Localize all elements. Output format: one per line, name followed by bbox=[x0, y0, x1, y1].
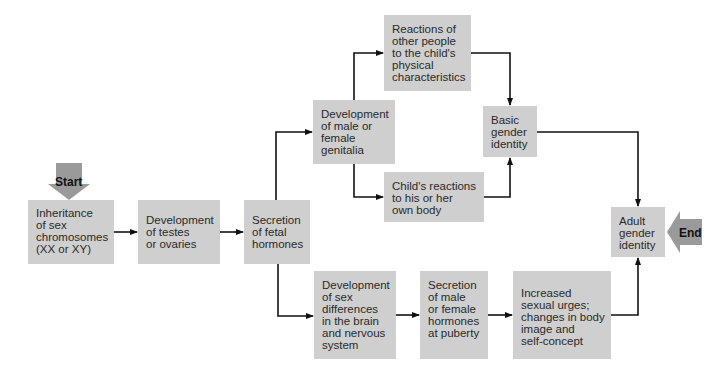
node-sexual-urges: Increased sexual urges; changes in body … bbox=[513, 271, 611, 359]
node-reactions-others: Reactions of other people to the child's… bbox=[384, 15, 471, 91]
start-label: Start bbox=[55, 175, 82, 189]
node-brain-differences: Development of sex differences in the br… bbox=[314, 271, 396, 359]
node-adult-identity: Adult gender identity bbox=[611, 207, 665, 257]
node-basic-identity: Basic gender identity bbox=[483, 106, 537, 157]
node-testes-ovaries: Development of testes or ovaries bbox=[138, 200, 220, 264]
node-inheritance: Inheritance of sex chromosomes (XX or XY… bbox=[28, 200, 114, 264]
node-child-reactions: Child's reactions to his or her own body bbox=[384, 172, 484, 222]
node-puberty-hormones: Secretion of male or female hormones at … bbox=[420, 271, 488, 359]
node-fetal-hormones: Secretion of fetal hormones bbox=[244, 200, 310, 264]
end-label: End bbox=[679, 226, 702, 240]
node-genitalia: Development of male or female genitalia bbox=[313, 100, 395, 164]
